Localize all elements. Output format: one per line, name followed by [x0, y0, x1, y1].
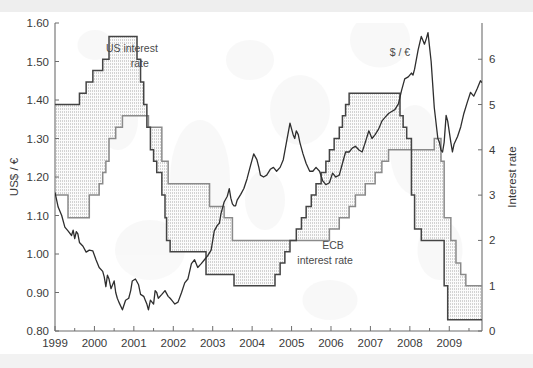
x-tick-label: 1999 [42, 337, 68, 349]
x-tick-label: 2006 [318, 337, 344, 349]
chart-annotation: interest rate [297, 254, 353, 266]
chart-annotation: rate [131, 57, 149, 69]
y-tick-label: 1.50 [27, 56, 49, 68]
y-tick-label: 1.40 [27, 94, 49, 106]
y-axis-left-title: US$ / € [8, 157, 20, 196]
x-tick-label: 2001 [121, 337, 147, 349]
x-tick-label: 2008 [397, 337, 423, 349]
y-axis-right-title: Interest rate [506, 146, 518, 207]
x-tick-label: 2009 [436, 337, 462, 349]
chart-svg: 0.800.901.001.101.201.301.401.501.600123… [0, 0, 533, 368]
chart-annotation: ECB [322, 239, 344, 251]
y2-tick-label: 4 [489, 144, 496, 156]
chart-figure: 0.800.901.001.101.201.301.401.501.600123… [0, 0, 533, 368]
y-tick-label: 1.00 [27, 248, 49, 260]
y-tick-label: 1.10 [27, 210, 49, 222]
y2-tick-label: 6 [489, 53, 495, 65]
y-tick-label: 0.80 [27, 325, 49, 337]
y-tick-label: 0.90 [27, 287, 49, 299]
y-tick-label: 1.20 [27, 171, 49, 183]
chart-annotation: $ / € [390, 46, 411, 58]
y2-tick-label: 2 [489, 234, 495, 246]
x-tick-label: 2004 [239, 337, 265, 349]
y2-tick-label: 3 [489, 189, 495, 201]
y-tick-label: 1.60 [27, 17, 49, 29]
x-tick-label: 2002 [160, 337, 186, 349]
x-tick-label: 2007 [358, 337, 384, 349]
x-tick-label: 2000 [82, 337, 108, 349]
x-tick-label: 2003 [200, 337, 226, 349]
y-tick-label: 1.30 [27, 133, 49, 145]
y2-tick-label: 1 [489, 280, 495, 292]
chart-annotation: US interest [106, 42, 158, 54]
y2-tick-label: 5 [489, 99, 495, 111]
x-tick-label: 2005 [279, 337, 305, 349]
y2-tick-label: 0 [489, 325, 495, 337]
